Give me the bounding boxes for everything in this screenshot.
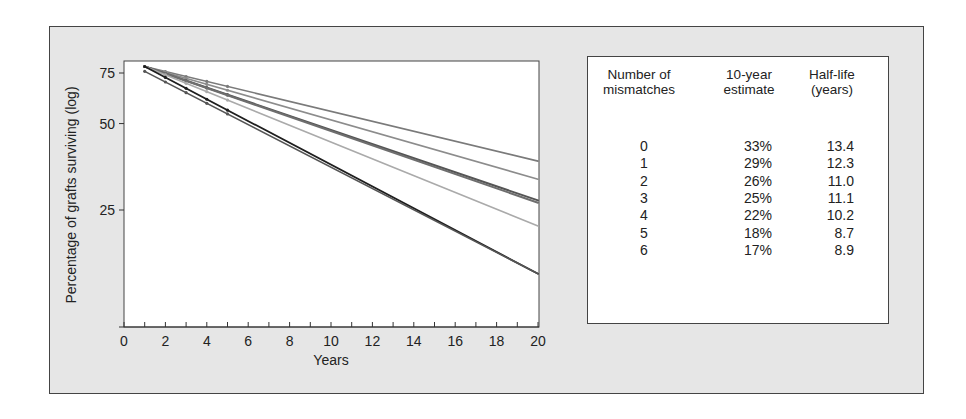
half-life-value: 11.1 [810, 191, 854, 206]
plot-area [124, 61, 539, 327]
mismatch-table: Number of mismatches 10-year estimate Ha… [587, 56, 889, 324]
x-tick-label: 12 [365, 333, 381, 349]
half-life-value: 8.9 [810, 243, 854, 258]
y-tick-label: 75 [99, 65, 115, 81]
ten-year-estimate: 18% [724, 226, 772, 241]
x-tick-label: 6 [244, 333, 252, 349]
x-tick-label: 18 [489, 333, 505, 349]
mismatch-count: 4 [632, 208, 656, 223]
mismatch-count: 0 [632, 139, 656, 154]
half-life-value: 12.3 [810, 156, 854, 171]
header-mismatches-line1: Number of [598, 67, 680, 82]
x-tick-label: 0 [120, 333, 128, 349]
half-life-value: 11.0 [810, 174, 854, 189]
header-half-life-line2: (years) [798, 82, 866, 97]
y-tick-label: 25 [99, 202, 115, 218]
x-tick-label: 4 [203, 333, 211, 349]
half-life-value: 10.2 [810, 208, 854, 223]
x-tick-label: 20 [530, 333, 546, 349]
y-tick-label: 50 [99, 116, 115, 132]
ten-year-estimate: 25% [724, 191, 772, 206]
x-tick-label: 14 [406, 333, 422, 349]
ten-year-estimate: 33% [724, 139, 772, 154]
half-life-value: 13.4 [810, 139, 854, 154]
header-mismatches-line2: mismatches [598, 82, 680, 97]
x-tick-label: 10 [323, 333, 339, 349]
x-tick-label: 2 [162, 333, 170, 349]
ten-year-estimate: 17% [724, 243, 772, 258]
y-axis: 255075 [99, 65, 124, 218]
y-axis-title: Percentage of grafts surviving (log) [63, 86, 79, 303]
x-tick-label: 16 [447, 333, 463, 349]
header-half-life-line1: Half-life [798, 67, 866, 82]
x-tick-label: 8 [286, 333, 294, 349]
header-estimate: 10-year estimate [712, 67, 786, 97]
mismatch-count: 1 [632, 156, 656, 171]
header-mismatches: Number of mismatches [598, 67, 680, 97]
ten-year-estimate: 29% [724, 156, 772, 171]
ten-year-estimate: 22% [724, 208, 772, 223]
mismatch-count: 6 [632, 243, 656, 258]
half-life-value: 8.7 [810, 226, 854, 241]
mismatch-count: 3 [632, 191, 656, 206]
x-axis-title: Years [313, 352, 348, 368]
mismatch-count: 2 [632, 174, 656, 189]
header-half-life: Half-life (years) [798, 67, 866, 97]
header-estimate-line2: estimate [712, 82, 786, 97]
ten-year-estimate: 26% [724, 174, 772, 189]
header-estimate-line1: 10-year [712, 67, 786, 82]
mismatch-count: 5 [632, 226, 656, 241]
